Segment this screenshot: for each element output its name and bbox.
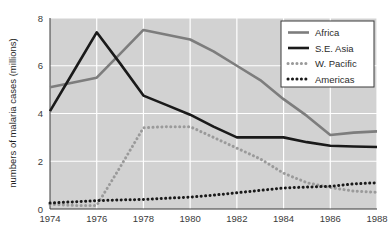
- y-axis-tick-labels: 02468: [38, 13, 43, 215]
- x-tick-label: 1986: [320, 213, 341, 224]
- legend-label-africa: Africa: [315, 27, 340, 38]
- legend-label-s-e-asia: S.E. Asia: [315, 43, 354, 54]
- y-tick-label: 8: [38, 13, 43, 24]
- chart-canvas: 02468 19741976197819801982198419861988 n…: [0, 0, 389, 233]
- y-tick-label: 6: [38, 60, 43, 71]
- chart-legend: AfricaS.E. AsiaW. PacificAmericas: [281, 21, 374, 87]
- y-tick-label: 4: [38, 108, 43, 119]
- legend-label-americas: Americas: [315, 74, 355, 85]
- x-tick-label: 1980: [180, 213, 201, 224]
- malaria-cases-line-chart: 02468 19741976197819801982198419861988 n…: [0, 0, 389, 233]
- x-axis-tick-labels: 19741976197819801982198419861988: [39, 213, 387, 224]
- y-tick-label: 2: [38, 156, 43, 167]
- x-tick-label: 1988: [366, 213, 387, 224]
- x-tick-label: 1982: [226, 213, 247, 224]
- x-tick-label: 1984: [273, 213, 294, 224]
- x-tick-label: 1978: [133, 213, 154, 224]
- x-tick-label: 1974: [39, 213, 60, 224]
- x-tick-label: 1976: [86, 213, 107, 224]
- y-axis-title: numbers of malaria cases (millions): [7, 38, 18, 187]
- legend-label-w-pacific: W. Pacific: [315, 58, 357, 69]
